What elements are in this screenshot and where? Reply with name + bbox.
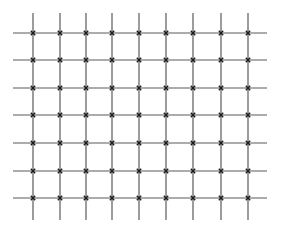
lattice-grid-diagram <box>0 0 281 229</box>
